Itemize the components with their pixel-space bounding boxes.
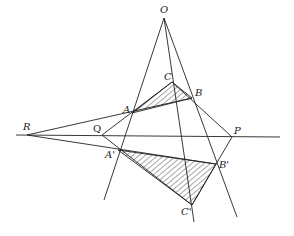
triangle-a1b1c1 xyxy=(118,150,216,205)
label-b: B xyxy=(194,87,202,98)
label-a: A xyxy=(122,104,130,115)
label-q: Q xyxy=(93,123,101,134)
line-ra1 xyxy=(27,135,216,164)
label-r: R xyxy=(22,121,31,132)
label-p: P xyxy=(233,125,241,136)
label-a1: A' xyxy=(104,149,115,160)
label-c: C xyxy=(164,71,172,82)
label-c1: C' xyxy=(181,206,191,217)
label-b1: B' xyxy=(218,159,229,170)
label-o: O xyxy=(160,4,168,15)
desargues-diagram: O C B A R Q P A' B' C' xyxy=(0,0,294,236)
line-qc xyxy=(102,82,172,135)
diagram-svg: O C B A R Q P A' B' C' xyxy=(0,0,294,236)
